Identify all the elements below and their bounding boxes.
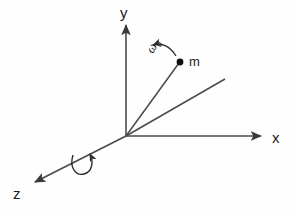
reference-line (126, 79, 225, 136)
rod-to-mass-line (126, 63, 179, 136)
mass-label: m (189, 55, 200, 68)
z-axis-line (35, 136, 126, 182)
y-axis-label: y (120, 5, 128, 20)
rotation-about-z-loop (72, 154, 92, 174)
z-axis-label: z (13, 186, 21, 201)
x-axis-label: x (272, 130, 280, 145)
figure-canvas: y x z m ω0 (0, 0, 293, 214)
mass-point-dot (177, 59, 184, 66)
diagram-svg (0, 0, 293, 214)
